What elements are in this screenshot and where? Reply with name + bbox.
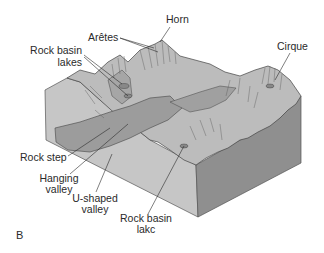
label-rock-basin-lakes-line2: lakes [30,56,82,68]
label-rock-basin-lake-line2: lakc [118,223,174,235]
label-cirque: Cirque [277,40,308,52]
label-aretes: Arêtes [88,31,118,43]
panel-label: B [16,229,23,241]
label-rock-step: Rock step [20,151,67,163]
label-rock-basin-lakes-line1: Rock basin [30,44,82,56]
label-horn: Horn [166,13,189,25]
rock-basin-lake-upper [119,84,129,89]
label-u-shaped-valley-line2: valley [70,203,120,215]
cirque-lake [266,84,274,88]
